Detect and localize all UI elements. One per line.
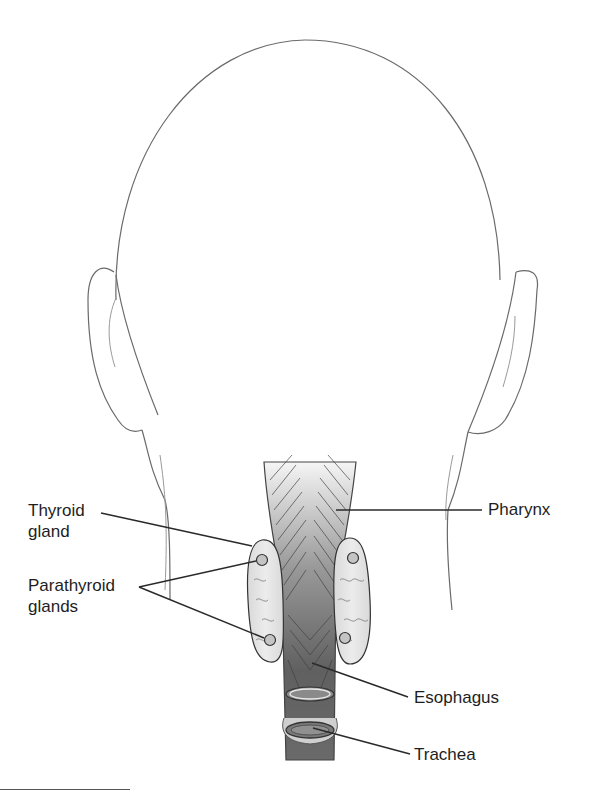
parathyroid-gland-lower-right	[340, 633, 351, 644]
right-ear-outline	[468, 271, 538, 434]
parathyroid-leader-upper	[139, 561, 256, 587]
anatomy-illustration	[0, 0, 595, 791]
parathyroid-glands-label: Parathyroid glands	[28, 575, 115, 617]
parathyroid-gland-lower-left	[265, 635, 276, 646]
head-outline	[116, 40, 500, 300]
left-ear-inner	[109, 298, 116, 367]
parathyroid-gland-upper-left	[257, 555, 268, 566]
thyroid-gland-label: Thyroid gland	[28, 500, 85, 542]
parathyroid-leader-lower	[139, 587, 264, 638]
esophagus-label: Esophagus	[414, 687, 499, 708]
pharynx-label: Pharynx	[488, 499, 550, 520]
parathyroid-gland-upper-right	[348, 553, 359, 564]
left-head-side	[116, 275, 158, 415]
right-head-side	[468, 272, 516, 432]
right-neck-outer	[447, 432, 468, 610]
footnote-divider	[0, 789, 130, 790]
left-neck-inner	[160, 455, 166, 590]
trachea-label: Trachea	[414, 744, 476, 765]
thyroid-leader	[101, 513, 252, 546]
